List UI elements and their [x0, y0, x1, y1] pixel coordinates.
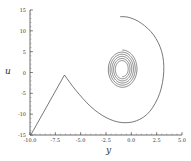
x-axis-title: y	[105, 145, 112, 155]
trajectory-line	[31, 17, 164, 135]
y-tick-label: 10	[20, 28, 26, 34]
y-axis-title: u	[5, 66, 11, 76]
y-tick-label: -10	[18, 111, 26, 117]
x-tick-label: -2.5	[101, 137, 111, 143]
spiral-line	[108, 50, 137, 87]
y-tick-label: -5	[21, 90, 26, 96]
plot-lines	[31, 17, 164, 135]
y-tick-label: 15	[20, 7, 26, 13]
x-tick-label: 5.0	[178, 137, 186, 143]
x-tick-label: -5.0	[76, 137, 86, 143]
x-tick-label: 2.5	[153, 137, 161, 143]
x-tick-label: 0.0	[127, 137, 135, 143]
x-tick-label: -7.5	[51, 137, 61, 143]
y-axis: 151050-5-10-15	[18, 7, 33, 138]
y-tick-label: 5	[23, 49, 26, 55]
phase-plot: -10.0-7.5-5.0-2.50.02.55.0 151050-5-10-1…	[0, 0, 191, 161]
y-tick-label: -15	[18, 132, 26, 138]
y-tick-label: 0	[23, 70, 26, 76]
x-axis: -10.0-7.5-5.0-2.50.02.55.0	[24, 132, 186, 143]
